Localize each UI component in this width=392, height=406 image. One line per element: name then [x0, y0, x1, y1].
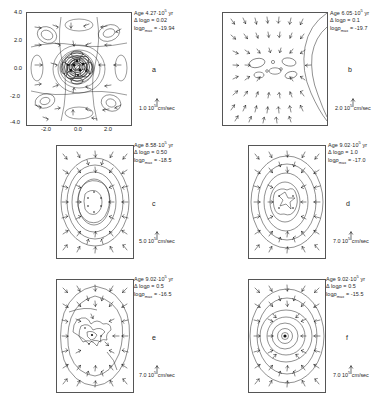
panel-a-delta-row: Δ logρ = 0.02 — [134, 17, 175, 24]
panel-d-logmax-row: logρmax = -17.0 — [328, 157, 367, 164]
panel-a-plot-area — [26, 12, 132, 126]
panel-c-age-row: Age 8.58·105 yr — [134, 142, 173, 149]
panel-a-ytick-1: 2.0 — [2, 37, 22, 43]
panel-e-logmax-row: logρmax = -16.5 — [134, 291, 173, 298]
panel-e-letter: e — [152, 334, 156, 341]
panel-d-field — [249, 146, 325, 258]
panel-a-annotation: Age 4.27·105 yr Δ logρ = 0.02 logρmax = … — [134, 10, 175, 32]
panel-a-ytick-4: -4.0 — [0, 119, 20, 125]
panel-e-field — [57, 280, 133, 392]
panel-f: Age 9.02·105 yr Δ logρ = 0.5 logρmax = -… — [196, 268, 392, 406]
panel-a: 4.0 2.0 0.0 -2.0 -4.0 -2.0 0.0 2.0 Age 4… — [0, 0, 196, 136]
panel-a-age-row: Age 4.27·105 yr — [134, 10, 175, 17]
panel-e: Age 9.02·105 yr Δ logρ = 0.5 logρmax = -… — [0, 268, 196, 406]
panel-a-ytick-3: -2.0 — [0, 93, 20, 99]
panel-d-age-row: Age 9.02·105 yr — [328, 142, 367, 149]
panel-b-age-row: Age 6.05·105 yr — [330, 10, 369, 17]
panel-e-age-row: Age 9.02·105 yr — [134, 276, 173, 283]
figure-root: 4.0 2.0 0.0 -2.0 -4.0 -2.0 0.0 2.0 Age 4… — [0, 0, 392, 406]
panel-c-annotation: Age 8.58·105 yr Δ logρ = 0.50 logρmax = … — [134, 142, 173, 164]
panel-e-plot-area — [56, 279, 134, 393]
panel-d: Age 9.02·105 yr Δ logρ = 1.0 logρmax = -… — [196, 134, 392, 270]
panel-b-scale-text: 2.0 105 cm/sec — [335, 105, 371, 111]
panel-b-annotation: Age 6.05·105 yr Δ logρ = 0.1 logρmax = -… — [330, 10, 369, 32]
panel-e-delta-row: Δ logρ = 0.5 — [134, 283, 173, 290]
panel-a-xtick-0: -2.0 — [36, 126, 56, 132]
panel-e-scale-text: 7.0 105 cm/sec — [139, 372, 175, 378]
panel-f-age-row: Age 9.02·105 yr — [326, 276, 365, 283]
panel-f-letter: f — [346, 334, 348, 341]
panel-a-ytick-2: 0.0 — [2, 65, 22, 71]
panel-f-delta-row: Δ logρ = 0.5 — [326, 283, 365, 290]
panel-c-scale-text: 5.0 105 cm/sec — [139, 238, 175, 244]
panel-f-annotation: Age 9.02·105 yr Δ logρ = 0.5 logρmax = -… — [326, 276, 365, 298]
panel-d-delta-row: Δ logρ = 1.0 — [328, 149, 367, 156]
panel-c-letter: c — [152, 200, 156, 207]
panel-a-xtick-2: 2.0 — [98, 126, 118, 132]
panel-b-letter: b — [348, 66, 352, 73]
panel-c-logmax-row: logρmax = -18.5 — [134, 157, 173, 164]
panel-b-plot-area — [222, 12, 328, 126]
panel-c-delta-row: Δ logρ = 0.50 — [134, 149, 173, 156]
panel-b-delta-row: Δ logρ = 0.1 — [330, 17, 369, 24]
panel-f-scale-text: 7.0 105 cm/sec — [333, 372, 369, 378]
panel-d-annotation: Age 9.02·105 yr Δ logρ = 1.0 logρmax = -… — [328, 142, 367, 164]
panel-d-letter: d — [346, 200, 350, 207]
panel-c-plot-area — [56, 145, 134, 259]
panel-c-field — [57, 146, 133, 258]
panel-f-field — [249, 280, 325, 392]
panel-a-logmax-row: logρmax = -19.94 — [134, 25, 175, 32]
panel-a-xtick-1: 0.0 — [68, 126, 88, 132]
panel-b-field — [223, 13, 327, 125]
panel-d-plot-area — [248, 145, 326, 259]
panel-a-ytick-0: 4.0 — [2, 9, 22, 15]
panel-a-field — [27, 13, 131, 125]
panel-f-plot-area — [248, 279, 326, 393]
panel-e-annotation: Age 9.02·105 yr Δ logρ = 0.5 logρmax = -… — [134, 276, 173, 298]
panel-a-letter: a — [152, 66, 156, 73]
panel-b: Age 6.05·105 yr Δ logρ = 0.1 logρmax = -… — [196, 0, 392, 136]
panel-a-scale-text: 1.0 105 cm/sec — [139, 105, 175, 111]
panel-f-logmax-row: logρmax = -15.5 — [326, 291, 365, 298]
panel-c: Age 8.58·105 yr Δ logρ = 0.50 logρmax = … — [0, 134, 196, 270]
panel-d-scale-text: 7.0 105 cm/sec — [333, 238, 369, 244]
panel-b-logmax-row: logρmax = -19.7 — [330, 25, 369, 32]
